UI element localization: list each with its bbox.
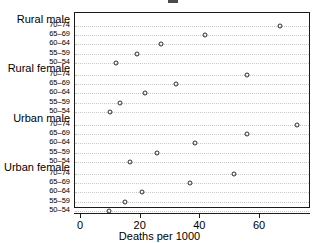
age-label: 70–74 — [49, 21, 70, 29]
gridline — [75, 162, 309, 163]
cropped-title-remnant — [168, 0, 178, 3]
data-point-marker — [158, 42, 163, 47]
x-tick — [80, 213, 81, 218]
age-label: 65–69 — [49, 79, 70, 87]
data-point-marker — [127, 159, 132, 164]
x-tick — [140, 213, 141, 218]
gridline — [75, 192, 309, 193]
data-point-marker — [143, 91, 148, 96]
data-point-marker — [108, 109, 113, 114]
gridline — [75, 35, 309, 36]
data-point-marker — [123, 199, 128, 204]
gridline — [75, 103, 309, 104]
gridline — [75, 44, 309, 45]
data-point-marker — [134, 51, 139, 56]
age-label: 55–59 — [49, 49, 70, 57]
age-label: 50–54 — [49, 206, 70, 214]
age-label: 60–64 — [49, 88, 70, 96]
data-point-marker — [192, 141, 197, 146]
data-point-marker — [244, 132, 249, 137]
age-label: 60–64 — [49, 138, 70, 146]
data-point-marker — [140, 190, 145, 195]
gridline — [75, 174, 309, 175]
data-point-marker — [118, 100, 123, 105]
data-point-marker — [155, 150, 160, 155]
age-label: 70–74 — [49, 120, 70, 128]
x-tick-label: 60 — [253, 220, 265, 231]
age-label: 70–74 — [49, 70, 70, 78]
plot-area — [74, 12, 310, 208]
x-tick — [199, 213, 200, 218]
gridline — [75, 202, 309, 203]
age-label: 55–59 — [49, 98, 70, 106]
gridline — [75, 134, 309, 135]
dot-plot-chart: Rural male70–7465–6960–6455–5950–54Rural… — [0, 0, 319, 243]
age-label: 60–64 — [49, 187, 70, 195]
age-label: 55–59 — [49, 148, 70, 156]
x-axis-title: Deaths per 1000 — [0, 231, 319, 242]
gridline — [75, 84, 309, 85]
gridline — [75, 63, 309, 64]
age-label: 60–64 — [49, 39, 70, 47]
x-tick — [259, 213, 260, 218]
gridline — [75, 54, 309, 55]
gridline — [75, 26, 309, 27]
data-point-marker — [113, 60, 118, 65]
gridline — [75, 75, 309, 76]
data-point-marker — [187, 181, 192, 186]
gridline — [75, 93, 309, 94]
data-point-marker — [277, 24, 282, 29]
age-label: 65–69 — [49, 30, 70, 38]
age-label: 65–69 — [49, 129, 70, 137]
y-axis-labels: Rural male70–7465–6960–6455–5950–54Rural… — [0, 0, 74, 243]
data-point-marker — [232, 172, 237, 177]
age-label: 65–69 — [49, 178, 70, 186]
data-point-marker — [203, 33, 208, 38]
data-point-marker — [244, 73, 249, 78]
x-axis-line — [74, 213, 310, 214]
data-point-marker — [294, 123, 299, 128]
x-tick-label: 0 — [77, 220, 83, 231]
gridline — [75, 125, 309, 126]
gridline — [75, 153, 309, 154]
data-point-marker — [174, 82, 179, 87]
age-label: 70–74 — [49, 169, 70, 177]
age-label: 55–59 — [49, 197, 70, 205]
